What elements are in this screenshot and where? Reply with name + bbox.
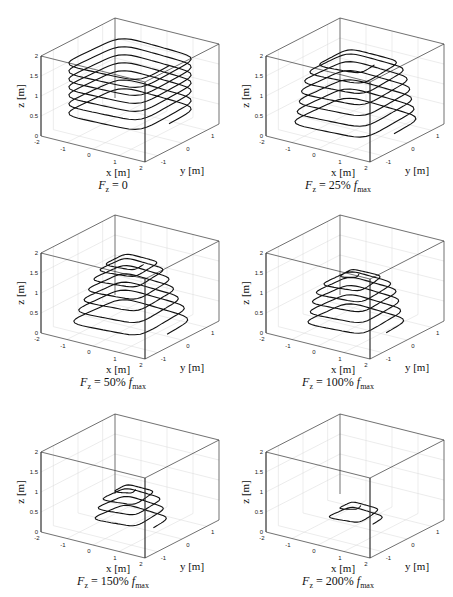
- x-axis-label: x [m]: [331, 166, 355, 178]
- axis-line: [370, 440, 444, 478]
- axis-line: [370, 241, 444, 279]
- y-tick-label: 1: [211, 330, 215, 336]
- x-tick-label: -1: [60, 146, 66, 152]
- z-tick-label: 1.5: [30, 270, 39, 276]
- x-tick-label: 1: [338, 159, 342, 165]
- equals-sign: =: [109, 178, 122, 192]
- fmax-subscript: max: [135, 581, 149, 590]
- plot-panel-5: 00.511.52-2-1012-101x [m]y [m]z [m]Fz = …: [0, 396, 226, 595]
- x-tick-label: -2: [34, 336, 40, 342]
- panel-caption: Fz = 150% fmax: [0, 574, 226, 590]
- equals-sign: =: [316, 178, 329, 192]
- x-tick-label: 1: [113, 356, 117, 362]
- x-tick-label: 2: [139, 362, 143, 368]
- x-tick-label: -2: [259, 535, 265, 541]
- x-tick-label: 0: [87, 152, 91, 158]
- axis-line: [266, 333, 370, 359]
- grid-line: [328, 500, 432, 526]
- x-tick-label: 2: [139, 561, 143, 567]
- plot-panel-2: 00.511.52-2-1012-101x [m]y [m]z [m]Fz = …: [225, 0, 451, 199]
- x-tick-label: 0: [87, 349, 91, 355]
- z-tick-label: 1: [35, 93, 39, 99]
- axis-line: [266, 56, 370, 82]
- z-axis-label: z [m]: [239, 84, 251, 108]
- z-tick-label: 1.5: [255, 73, 264, 79]
- z-tick-label: 2: [35, 250, 39, 256]
- y-tick-label: 1: [436, 529, 440, 535]
- axis-line: [266, 253, 370, 279]
- equals-sign: =: [313, 375, 326, 389]
- y-tick-label: 1: [436, 330, 440, 336]
- x-axis-label: x [m]: [106, 562, 130, 574]
- equals-sign: =: [91, 375, 104, 389]
- axis-line: [370, 321, 444, 359]
- force-value: 150%: [101, 574, 132, 588]
- z-axis-label: z [m]: [14, 84, 26, 108]
- axis-line: [266, 452, 370, 478]
- fmax-subscript: max: [357, 185, 371, 194]
- panel-caption: Fz = 50% fmax: [0, 375, 226, 391]
- plot-3d-2: 00.511.52-2-1012-101x [m]y [m]z [m]: [225, 0, 451, 180]
- plot-panel-3: 00.511.52-2-1012-101x [m]y [m]z [m]Fz = …: [0, 197, 226, 396]
- z-tick-label: 1.5: [255, 270, 264, 276]
- fmax-subscript: max: [132, 382, 146, 391]
- x-tick-label: -1: [285, 542, 291, 548]
- x-axis-label: x [m]: [331, 562, 355, 574]
- y-tick-label: 0: [186, 343, 190, 349]
- z-tick-label: 1.5: [30, 469, 39, 475]
- y-tick-label: -1: [386, 356, 392, 362]
- y-tick-label: -1: [386, 555, 392, 561]
- x-tick-label: 0: [312, 548, 316, 554]
- y-tick-label: 0: [186, 542, 190, 548]
- x-axis-label: x [m]: [331, 363, 355, 375]
- axis-line: [41, 136, 145, 162]
- z-tick-label: 2: [260, 53, 264, 59]
- axis-line: [145, 124, 219, 162]
- axis-line: [41, 56, 145, 82]
- z-tick-label: 0.5: [30, 113, 39, 119]
- x-tick-label: 0: [87, 548, 91, 554]
- axis-line: [145, 44, 219, 82]
- y-tick-label: -1: [161, 159, 167, 165]
- axis-line: [266, 136, 370, 162]
- x-tick-label: -1: [60, 542, 66, 548]
- y-axis-label: y [m]: [180, 164, 204, 176]
- axis-line: [370, 520, 444, 558]
- force-value: 50%: [104, 375, 129, 389]
- z-tick-label: 0.5: [30, 509, 39, 515]
- plot-3d-3: 00.511.52-2-1012-101x [m]y [m]z [m]: [0, 197, 226, 377]
- y-axis-label: y [m]: [405, 361, 429, 373]
- x-axis-label: x [m]: [106, 363, 130, 375]
- z-tick-label: 1: [35, 290, 39, 296]
- z-axis-label: z [m]: [239, 281, 251, 305]
- axis-line: [266, 532, 370, 558]
- axis-line: [41, 532, 145, 558]
- plot-panel-1: 00.511.52-2-1012-101x [m]y [m]z [m]Fz = …: [0, 0, 226, 199]
- x-tick-label: -1: [285, 343, 291, 349]
- z-tick-label: 1: [260, 290, 264, 296]
- x-tick-label: -1: [285, 146, 291, 152]
- z-tick-label: 2: [35, 449, 39, 455]
- z-tick-label: 2: [260, 250, 264, 256]
- y-tick-label: 1: [436, 133, 440, 139]
- trajectory-line: [295, 50, 416, 137]
- y-tick-label: 0: [411, 146, 415, 152]
- z-tick-label: 2: [35, 53, 39, 59]
- panel-caption: Fz = 25% fmax: [225, 178, 451, 194]
- y-axis-label: y [m]: [180, 361, 204, 373]
- fmax-subscript: max: [360, 382, 374, 391]
- z-tick-label: 0.5: [255, 113, 264, 119]
- y-axis-label: y [m]: [180, 560, 204, 572]
- y-tick-label: -1: [386, 159, 392, 165]
- x-tick-label: 0: [312, 349, 316, 355]
- z-tick-label: 0.5: [255, 509, 264, 515]
- z-tick-label: 1: [35, 489, 39, 495]
- x-tick-label: 1: [113, 159, 117, 165]
- x-tick-label: 2: [139, 165, 143, 171]
- panel-caption: Fz = 0: [0, 178, 226, 194]
- y-tick-label: 0: [411, 542, 415, 548]
- equals-sign: =: [88, 574, 101, 588]
- z-tick-label: 0.5: [255, 310, 264, 316]
- force-value: 0: [122, 178, 128, 192]
- z-axis-label: z [m]: [239, 480, 251, 504]
